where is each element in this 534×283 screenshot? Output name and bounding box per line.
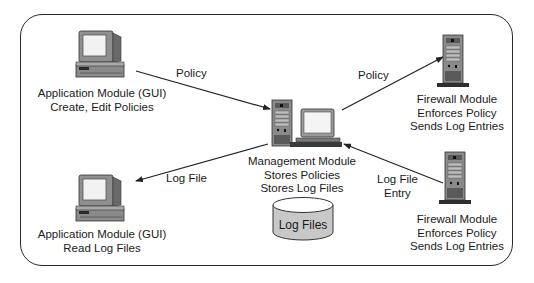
node-label-line: Create, Edit Policies — [22, 101, 182, 115]
node-label-line: Firewall Module — [395, 213, 519, 227]
edge-label-management-to-firewall-top: Policy — [358, 69, 389, 83]
node-label-line: Application Module (GUI) — [22, 228, 182, 242]
edge-label-management-to-app-read: Log File — [166, 172, 207, 186]
tower-server-icon — [437, 35, 469, 87]
node-label-app-create: Application Module (GUI) Create, Edit Po… — [22, 87, 182, 114]
node-label-line: Stores Log Files — [232, 182, 372, 196]
edge-label-app-to-management: Policy — [176, 67, 207, 81]
node-label-line: Enforces Policy — [395, 107, 519, 121]
tower-server-icon — [439, 152, 471, 204]
desktop-computer-icon — [76, 175, 124, 221]
node-label-line: Application Module (GUI) — [22, 87, 182, 101]
node-label-line: Sends Log Entries — [395, 120, 519, 134]
node-label-management: Management Module Stores Policies Stores… — [232, 155, 372, 196]
database-label: Log Files — [273, 218, 333, 232]
node-label-firewall-bottom: Firewall Module Enforces Policy Sends Lo… — [395, 213, 519, 254]
node-label-line: Management Module — [232, 155, 372, 169]
server-with-monitor-icon — [272, 100, 342, 147]
node-label-line: Firewall Module — [395, 93, 519, 107]
node-label-line: Read Log Files — [22, 242, 182, 256]
node-label-line: Enforces Policy — [395, 227, 519, 241]
node-label-line: Sends Log Entries — [395, 240, 519, 254]
edge-label-firewall-bottom-to-management: Log File Entry — [377, 173, 418, 200]
node-label-firewall-top: Firewall Module Enforces Policy Sends Lo… — [395, 93, 519, 134]
desktop-computer-icon — [76, 31, 124, 77]
edge-label-line: Log File — [377, 173, 418, 187]
node-label-line: Stores Policies — [232, 169, 372, 183]
edge-label-line: Entry — [377, 187, 418, 201]
node-label-app-read: Application Module (GUI) Read Log Files — [22, 228, 182, 255]
